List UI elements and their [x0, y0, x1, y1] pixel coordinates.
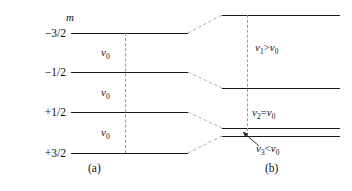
connector-line-2 — [188, 72, 222, 88]
energy-level-diagram: m −3/2 −1/2 +1/2 +3/2 ν0 ν0 ν0 (a) ν1>ν0… — [0, 0, 352, 191]
connector-line-1 — [188, 15, 222, 33]
connector-line-4 — [188, 136, 222, 153]
connector-overlay — [0, 0, 352, 191]
connector-line-3 — [188, 112, 222, 128]
